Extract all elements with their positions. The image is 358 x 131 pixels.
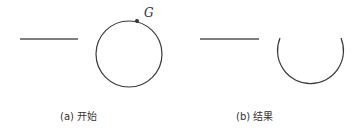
caption-b: (b) 结果 xyxy=(236,108,273,123)
diagram-canvas xyxy=(0,0,358,131)
circle-a xyxy=(96,21,162,87)
arc-b xyxy=(278,38,344,84)
caption-a: (a) 开始 xyxy=(60,108,97,123)
point-g-label: G xyxy=(144,6,154,20)
point-g xyxy=(135,19,139,23)
